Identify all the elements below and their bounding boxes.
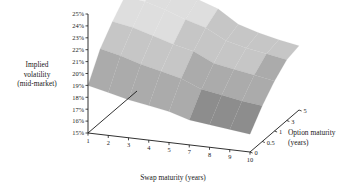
y-tick-label-6: 21%: [72, 58, 84, 65]
y-tick-label-9: 24%: [72, 22, 84, 29]
x-tick-label-1: 2: [107, 139, 110, 146]
surface-chart: 15%16%17%18%19%20%21%22%23%24%25%1234578…: [0, 0, 358, 189]
y-tick-label-7: 22%: [72, 46, 84, 53]
depth-guide-line: [88, 91, 137, 133]
x-tick-label-8: 10: [247, 156, 253, 163]
x-axis-title: Swap maturity (years): [108, 166, 238, 184]
y-tick-label-4: 19%: [72, 82, 84, 89]
chart-canvas: 15%16%17%18%19%20%21%22%23%24%25%1234578…: [0, 0, 358, 189]
x-tick-label-5: 7: [188, 148, 192, 155]
z-axis-tick: [262, 142, 265, 143]
y-tick-label-8: 23%: [72, 34, 84, 41]
z-axis-title-line-2: (years): [288, 138, 358, 148]
y-tick-label-5: 20%: [72, 70, 84, 77]
y-axis-title-line-3: (mid-market): [8, 79, 66, 89]
x-tick-label-7: 9: [228, 153, 231, 160]
z-tick-label-0: 0: [255, 149, 258, 156]
y-axis-title: Implied volatility (mid-market): [8, 60, 66, 89]
z-axis-title-line-1: Option maturity: [288, 128, 358, 138]
x-tick-label-6: 8: [208, 151, 211, 158]
x-tick-label-2: 3: [127, 141, 130, 148]
x-axis-title-text: Swap maturity (years): [140, 173, 206, 182]
z-axis-tick: [275, 131, 278, 132]
x-tick-label-3: 4: [147, 144, 151, 151]
x-tick-label-0: 1: [86, 137, 89, 144]
y-tick-label-3: 18%: [72, 94, 84, 101]
y-tick-label-0: 15%: [72, 129, 84, 136]
z-tick-label-2: 1: [279, 128, 282, 135]
z-tick-label-3: 3: [291, 118, 294, 125]
z-tick-label-1: 0.5: [267, 139, 275, 146]
surface-mesh: [88, 0, 299, 134]
y-axis-title-line-2: volatility: [8, 70, 66, 80]
z-tick-label-4: 5: [304, 107, 307, 114]
y-axis-title-line-1: Implied: [8, 60, 66, 70]
y-tick-label-10: 25%: [72, 10, 84, 17]
y-tick-label-2: 17%: [72, 106, 84, 113]
z-axis-title: Option maturity (years): [288, 128, 358, 147]
y-tick-label-1: 16%: [72, 117, 84, 124]
z-axis-tick: [287, 121, 290, 122]
z-axis-tick: [299, 110, 302, 111]
x-tick-label-4: 5: [167, 146, 170, 153]
